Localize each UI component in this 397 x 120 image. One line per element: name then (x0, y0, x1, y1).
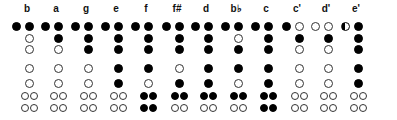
note-label: e' (341, 3, 371, 15)
note-label: e (101, 3, 131, 15)
hole-1-icon (25, 22, 34, 31)
thumb-hole-icon (191, 22, 200, 31)
hole-6a-icon (21, 92, 29, 100)
thumb-hole-icon (282, 22, 291, 31)
hole-7b-icon (359, 104, 367, 112)
hole-7a-icon (80, 104, 88, 112)
thumb-hole-icon (71, 22, 80, 31)
hole-2-icon (114, 34, 123, 43)
hole-2-icon (354, 34, 363, 43)
note-label: d (191, 3, 221, 15)
hole-5-icon (324, 79, 333, 88)
hole-4-icon (175, 64, 184, 73)
hole-2-icon (175, 34, 184, 43)
hole-7b-icon (300, 104, 308, 112)
hole-1-icon (54, 22, 63, 31)
hole-6b-icon (359, 92, 367, 100)
hole-6a-icon (230, 92, 238, 100)
hole-3-icon (175, 45, 184, 54)
hole-2-icon (25, 34, 34, 43)
hole-7a-icon (350, 104, 358, 112)
hole-6a-icon (80, 92, 88, 100)
hole-2-icon (234, 34, 243, 43)
hole-7a-icon (110, 104, 118, 112)
hole-2-icon (264, 34, 273, 43)
note-label: c (251, 3, 281, 15)
hole-4-icon (114, 64, 123, 73)
hole-6b-icon (269, 92, 277, 100)
hole-4-icon (144, 64, 153, 73)
hole-3-icon (234, 45, 243, 54)
note-column: d (191, 0, 221, 120)
hole-1-icon (114, 22, 123, 31)
hole-7b-icon (269, 104, 277, 112)
hole-7b-icon (119, 104, 127, 112)
hole-6b-icon (300, 92, 308, 100)
hole-3-icon (25, 45, 34, 54)
hole-5-icon (264, 79, 273, 88)
hole-5-icon (175, 79, 184, 88)
note-label: c' (282, 3, 312, 15)
thumb-hole-icon (341, 22, 350, 31)
hole-1-icon (234, 22, 243, 31)
hole-1-icon (204, 22, 213, 31)
hole-3-icon (354, 45, 363, 54)
note-column: f (131, 0, 161, 120)
hole-5-icon (144, 79, 153, 88)
hole-6a-icon (350, 92, 358, 100)
hole-6b-icon (119, 92, 127, 100)
thumb-hole-icon (251, 22, 260, 31)
hole-7a-icon (320, 104, 328, 112)
thumb-hole-icon (101, 22, 110, 31)
hole-3-icon (54, 45, 63, 54)
thumb-hole-icon (131, 22, 140, 31)
hole-3-icon (264, 45, 273, 54)
hole-6a-icon (260, 92, 268, 100)
hole-7a-icon (260, 104, 268, 112)
hole-5-icon (114, 79, 123, 88)
hole-7a-icon (50, 104, 58, 112)
hole-6a-icon (200, 92, 208, 100)
hole-4-icon (324, 64, 333, 73)
hole-6b-icon (59, 92, 67, 100)
hole-7b-icon (59, 104, 67, 112)
thumb-hole-icon (221, 22, 230, 31)
note-column: f# (162, 0, 192, 120)
hole-1-icon (84, 22, 93, 31)
hole-5-icon (204, 79, 213, 88)
hole-6a-icon (171, 92, 179, 100)
hole-6b-icon (180, 92, 188, 100)
hole-6b-icon (30, 92, 38, 100)
thumb-hole-icon (311, 22, 320, 31)
hole-4-icon (204, 64, 213, 73)
note-column: c (251, 0, 281, 120)
hole-7a-icon (230, 104, 238, 112)
hole-7a-icon (291, 104, 299, 112)
hole-4-icon (264, 64, 273, 73)
note-label: g (71, 3, 101, 15)
hole-5-icon (295, 79, 304, 88)
hole-3-icon (204, 45, 213, 54)
thumb-hole-icon (41, 22, 50, 31)
hole-7b-icon (209, 104, 217, 112)
hole-7b-icon (180, 104, 188, 112)
hole-7b-icon (89, 104, 97, 112)
note-label: d' (311, 3, 341, 15)
hole-4-icon (84, 64, 93, 73)
note-column: a (41, 0, 71, 120)
hole-6a-icon (291, 92, 299, 100)
hole-1-icon (295, 22, 304, 31)
hole-5-icon (54, 79, 63, 88)
hole-6b-icon (209, 92, 217, 100)
note-column: b (12, 0, 42, 120)
hole-5-icon (354, 79, 363, 88)
note-column: e' (341, 0, 371, 120)
hole-2-icon (84, 34, 93, 43)
hole-4-icon (295, 64, 304, 73)
hole-4-icon (354, 64, 363, 73)
note-column: e (101, 0, 131, 120)
note-label: b (12, 3, 42, 15)
hole-6b-icon (329, 92, 337, 100)
hole-2-icon (144, 34, 153, 43)
hole-7b-icon (30, 104, 38, 112)
